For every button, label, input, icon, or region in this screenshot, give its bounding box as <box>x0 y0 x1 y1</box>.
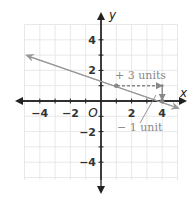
x-tick-label: −4 <box>31 107 48 120</box>
x-tick-label: 4 <box>158 107 166 120</box>
x-axis-label: x <box>179 86 188 100</box>
point-4-1 <box>161 84 164 87</box>
point-4-0 <box>160 99 165 104</box>
y-tick-label: 4 <box>88 34 96 47</box>
run-label: + 3 units <box>115 69 166 82</box>
x-tick-label: −2 <box>62 107 79 120</box>
y-axis-label: y <box>108 8 117 22</box>
y-tick-label: −2 <box>79 126 96 139</box>
coordinate-plane: −4 −2 2 4 4 2 −2 −4 O y x + 3 units − 1 … <box>0 0 195 208</box>
origin-label: O <box>88 106 97 120</box>
y-tick-label: 2 <box>88 64 96 77</box>
y-tick-label: −4 <box>79 156 96 169</box>
point-1-1 <box>114 83 119 88</box>
rise-label: − 1 unit <box>117 121 163 134</box>
rise-leader <box>140 95 156 123</box>
x-tick-label: 2 <box>128 107 136 120</box>
